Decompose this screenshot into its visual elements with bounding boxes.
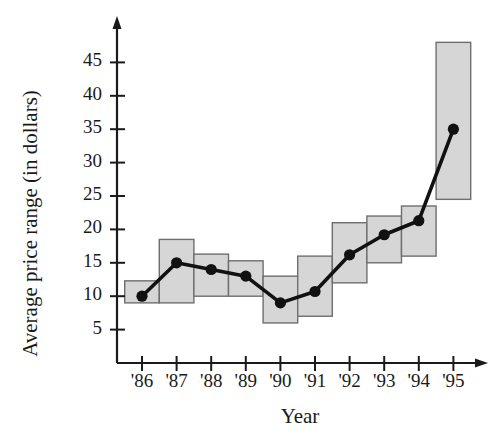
data-point-marker	[240, 271, 251, 282]
y-tick-label: 30	[62, 150, 102, 172]
y-tick-label: 10	[62, 283, 102, 305]
y-tick-label: 5	[62, 317, 102, 339]
price-range-bar	[194, 254, 229, 296]
y-tick-label: 20	[62, 216, 102, 238]
data-point-marker	[309, 286, 320, 297]
price-range-bar	[402, 206, 437, 256]
data-point-marker	[206, 264, 217, 275]
y-axis	[110, 16, 125, 363]
y-tick-label: 25	[62, 183, 102, 205]
data-point-marker	[379, 229, 390, 240]
data-point-marker	[275, 297, 286, 308]
y-tick-label: 40	[62, 83, 102, 105]
x-axis	[117, 356, 488, 371]
data-point-marker	[171, 257, 182, 268]
data-point-marker	[136, 291, 147, 302]
data-point-marker	[344, 249, 355, 260]
y-tick-label: 45	[62, 49, 102, 71]
price-range-bar	[436, 42, 471, 199]
chart-figure: Average price range (in dollars) 5101520…	[0, 0, 500, 447]
x-tick-label: '95	[433, 370, 473, 392]
price-range-bar	[159, 239, 194, 302]
bars-group	[125, 42, 471, 323]
y-tick-label: 35	[62, 116, 102, 138]
data-point-marker	[448, 124, 459, 135]
y-tick-label: 15	[62, 250, 102, 272]
data-point-marker	[413, 215, 424, 226]
x-axis-title: Year	[110, 404, 490, 429]
